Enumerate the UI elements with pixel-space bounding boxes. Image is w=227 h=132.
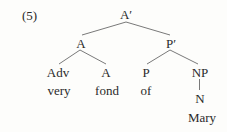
- edge-root-pbar: [126, 22, 170, 35]
- edge-pbar-p: [147, 50, 170, 64]
- node-p-head: P: [142, 66, 149, 79]
- node-adv: Adv: [47, 66, 69, 79]
- edge-pbar-np: [170, 50, 198, 64]
- node-root-a-bar: A′: [120, 8, 132, 21]
- node-a-head: A: [101, 66, 110, 79]
- edge-a-ahead: [80, 50, 106, 64]
- edge-root-a: [82, 22, 126, 35]
- word-of: of: [141, 84, 152, 97]
- word-mary: Mary: [188, 111, 216, 124]
- node-np: NP: [192, 66, 209, 79]
- node-n: N: [195, 92, 204, 105]
- node-a-phrase: A: [76, 37, 85, 50]
- node-p-bar: P′: [166, 37, 176, 50]
- word-fond: fond: [95, 84, 119, 97]
- word-very: very: [47, 84, 70, 97]
- edge-a-adv: [59, 50, 80, 64]
